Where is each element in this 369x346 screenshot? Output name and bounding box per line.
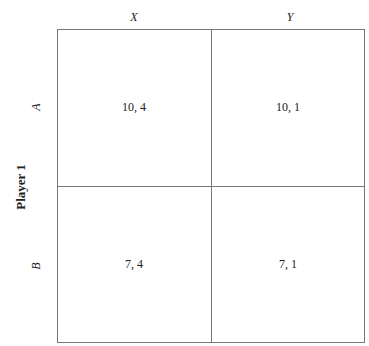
row-header-a: A bbox=[26, 97, 46, 117]
payoff-b-y: 7, 1 bbox=[279, 257, 297, 272]
cell-b-x: 7, 4 bbox=[57, 186, 211, 343]
payoff-b-x: 7, 4 bbox=[125, 257, 143, 272]
column-header-y: Y bbox=[270, 10, 310, 25]
payoff-a-y: 10, 1 bbox=[276, 100, 300, 115]
cell-a-y: 10, 1 bbox=[211, 29, 365, 186]
cell-a-x: 10, 4 bbox=[57, 29, 211, 186]
column-header-x: X bbox=[114, 10, 154, 25]
player-1-label: Player 1 bbox=[12, 152, 30, 222]
row-header-b: B bbox=[26, 256, 46, 276]
payoff-a-x: 10, 4 bbox=[122, 100, 146, 115]
cell-b-y: 7, 1 bbox=[211, 186, 365, 343]
